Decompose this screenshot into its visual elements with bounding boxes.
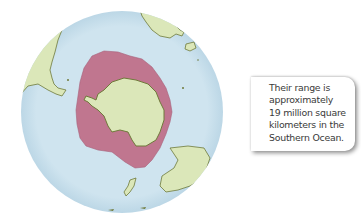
island xyxy=(182,87,184,89)
island xyxy=(67,79,69,81)
island xyxy=(197,59,199,61)
range-callout-box: Their range is approximately 19 million … xyxy=(251,77,355,151)
globe xyxy=(0,0,250,221)
callout-text: Their range is approximately 19 million … xyxy=(269,82,351,144)
southern-ocean-map xyxy=(0,0,250,221)
